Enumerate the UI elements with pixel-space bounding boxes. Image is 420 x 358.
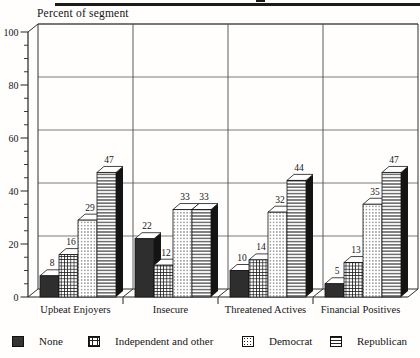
bar-value-label: 22	[142, 221, 152, 231]
bar-chart-canvas: 020406080100Upbeat EnjoyersInsecureThrea…	[0, 0, 420, 330]
bar-value-label: 8	[50, 258, 55, 268]
y-tick-label: 0	[14, 292, 19, 303]
bar-value-label: 13	[351, 245, 361, 255]
floor-separator-edge	[313, 289, 323, 297]
bar-value-label: 35	[370, 187, 380, 197]
bar-front	[287, 180, 306, 297]
y-tick-label: 100	[4, 27, 19, 38]
legend-swatch-democrat-icon	[242, 336, 254, 347]
bar-side	[306, 174, 313, 297]
bar-front	[154, 265, 173, 297]
legend-item-democrat: Democrat	[242, 334, 312, 348]
bar-value-label: 47	[389, 155, 399, 165]
bar-front	[59, 255, 78, 297]
y-tick-label: 80	[9, 80, 19, 91]
legend-swatch-independent-icon	[88, 336, 100, 347]
y-tick-label: 20	[9, 239, 19, 250]
floor-separator-edge	[218, 289, 228, 297]
bar-value-label: 44	[294, 163, 304, 173]
depth-edge	[28, 289, 38, 297]
bar-front	[344, 263, 363, 297]
bar-side	[401, 166, 408, 297]
bar-front	[97, 172, 116, 297]
depth-edge	[408, 289, 418, 297]
bar-front	[268, 212, 287, 297]
bar-value-label: 33	[180, 192, 190, 202]
bar-front	[382, 172, 401, 297]
legend-item-none: None	[12, 334, 63, 348]
y-tick-label: 40	[9, 186, 19, 197]
bar-front	[325, 284, 344, 297]
bar-value-label: 32	[275, 195, 285, 205]
bar-value-label: 12	[161, 248, 171, 258]
category-label: Insecure	[153, 304, 189, 315]
legend-label-independent: Independent and other	[115, 335, 213, 347]
legend-item-republican: Republican	[330, 334, 407, 348]
bar-side	[116, 166, 123, 297]
legend-label-democrat: Democrat	[269, 335, 312, 347]
bar-front	[192, 210, 211, 297]
depth-edge	[28, 24, 38, 32]
bar-value-label: 5	[335, 266, 340, 276]
bar-front	[249, 260, 268, 297]
legend-swatch-republican-icon	[330, 336, 342, 347]
bar-value-label: 16	[66, 237, 76, 247]
bar-front	[40, 276, 59, 297]
category-label: Upbeat Enjoyers	[40, 304, 110, 315]
bar-value-label: 47	[104, 155, 114, 165]
bar-front	[135, 239, 154, 297]
bar-front	[78, 220, 97, 297]
bar-value-label: 29	[85, 203, 95, 213]
bar-front	[173, 210, 192, 297]
legend-label-republican: Republican	[357, 335, 407, 347]
legend-item-independent: Independent and other	[88, 334, 213, 348]
y-tick-label: 60	[9, 133, 19, 144]
legend-swatch-none-icon	[12, 336, 24, 347]
category-label: Financial Positives	[321, 304, 401, 315]
category-label: Threatened Actives	[225, 304, 306, 315]
bar-value-label: 33	[199, 192, 209, 202]
bar-front	[363, 204, 382, 297]
scanned-bar-chart-figure: Percent of segment 020406080100Upbeat En…	[0, 0, 420, 358]
legend-label-none: None	[39, 335, 63, 347]
bar-side	[211, 204, 218, 297]
bar-value-label: 14	[256, 242, 266, 252]
bar-value-label: 10	[237, 253, 247, 263]
floor-separator-edge	[123, 289, 133, 297]
bar-front	[230, 271, 249, 298]
